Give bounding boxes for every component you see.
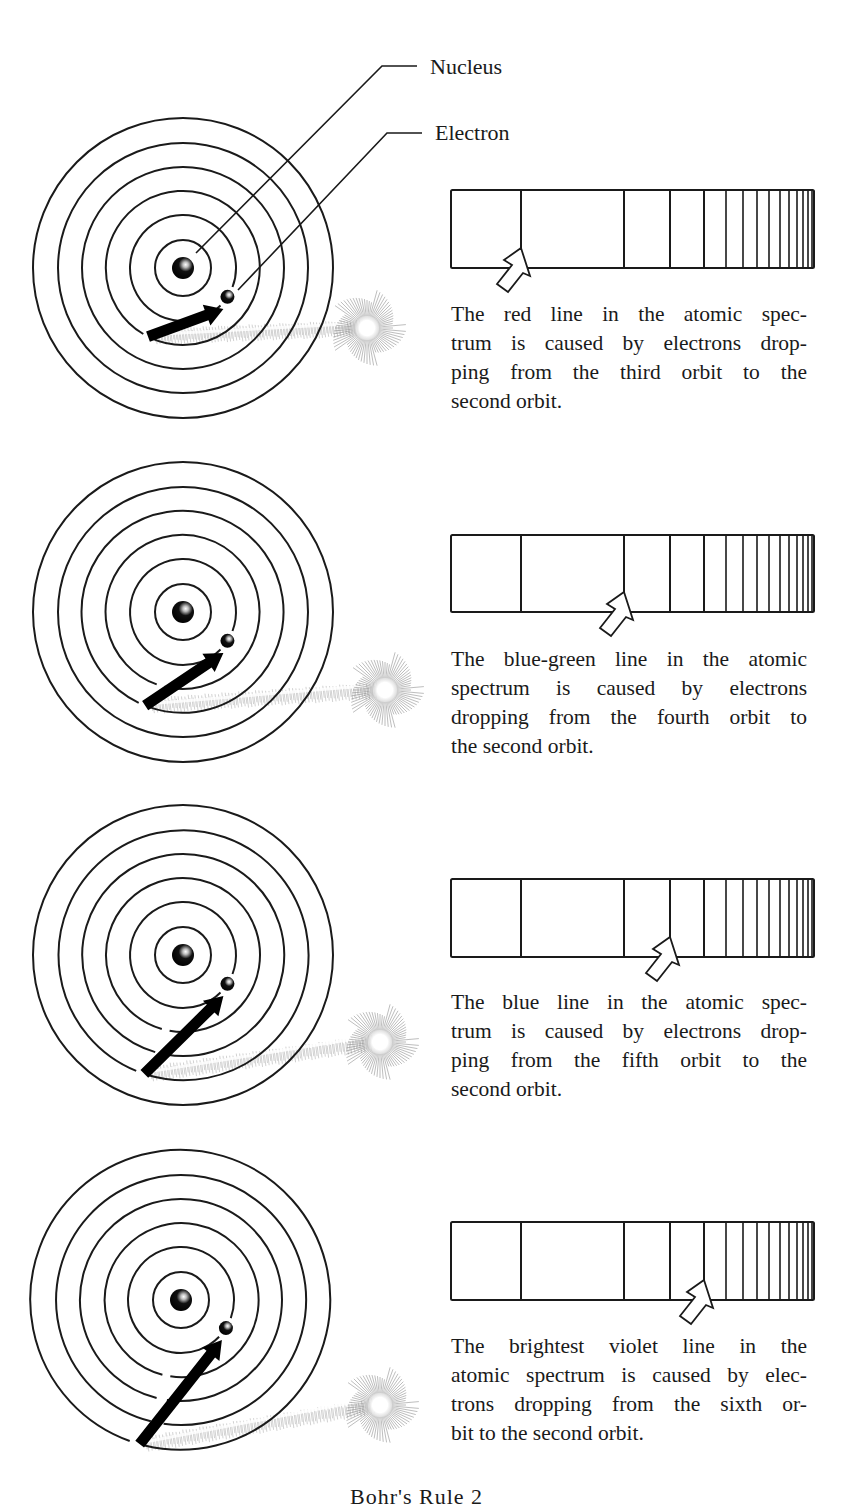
electron-icon (220, 977, 234, 991)
atom-panel-3 (33, 805, 419, 1105)
figure-caption-truncated: Bohr's Rule 2 (350, 1484, 483, 1508)
caption-line: dropping from the fourth orbit to (451, 703, 807, 732)
caption-line: bit to the second orbit. (451, 1419, 807, 1448)
atom-panel-1 (33, 118, 406, 418)
electron-transition-arrow-icon (146, 305, 223, 342)
spectrum-bar-3 (451, 879, 814, 981)
caption-line: the second orbit. (451, 732, 807, 761)
emitted-light-beam (149, 682, 386, 713)
caption-line: second orbit. (451, 1075, 807, 1104)
light-burst-icon (333, 290, 406, 365)
nucleus-icon (172, 944, 194, 966)
electron-icon (220, 290, 234, 304)
caption-line: trum is caused by electrons drop- (451, 329, 807, 358)
nucleus-leader-line (196, 66, 417, 253)
spectrum-bar-4 (451, 1222, 814, 1324)
caption-line: The red line in the atomic spec- (451, 300, 807, 329)
spectrum-frame (451, 1222, 814, 1300)
spectrum-frame (451, 535, 814, 612)
light-burst-icon (346, 1004, 419, 1079)
spectrum-bar-1 (451, 190, 814, 292)
electron-icon (220, 634, 234, 648)
spectrum-bar-2 (451, 535, 814, 636)
light-burst-icon (351, 652, 424, 727)
caption-panel-1: The red line in the atomic spec- trum is… (451, 300, 807, 416)
nucleus-icon (172, 601, 194, 623)
electron-transition-arrow-icon (135, 1340, 222, 1448)
atom-panel-4 (30, 1150, 419, 1452)
caption-line: ping from the fifth orbit to the (451, 1046, 807, 1075)
caption-line: The blue-green line in the atomic (451, 645, 807, 674)
spectrum-frame (451, 190, 814, 268)
light-burst-icon (346, 1367, 419, 1442)
caption-line: trons dropping from the sixth or- (451, 1390, 807, 1419)
caption-line: trum is caused by electrons drop- (451, 1017, 807, 1046)
electron-label: Electron (435, 120, 510, 146)
spectrum-frame (451, 879, 814, 957)
nucleus-icon (170, 1289, 192, 1311)
caption-line: ping from the third orbit to the (451, 358, 807, 387)
caption-line: The blue line in the atomic spec- (451, 988, 807, 1017)
caption-line: The brightest violet line in the (451, 1332, 807, 1361)
nucleus-label: Nucleus (430, 54, 502, 80)
caption-panel-3: The blue line in the atomic spec- trum i… (451, 988, 807, 1104)
nucleus-icon (172, 257, 194, 279)
caption-line: second orbit. (451, 387, 807, 416)
atom-panel-2 (33, 462, 424, 762)
caption-line: atomic spectrum is caused by elec- (451, 1361, 807, 1390)
electron-icon (219, 1321, 233, 1335)
caption-line: spectrum is caused by electrons (451, 674, 807, 703)
caption-panel-4: The brightest violet line in the atomic … (451, 1332, 807, 1448)
caption-panel-2: The blue-green line in the atomic spectr… (451, 645, 807, 761)
